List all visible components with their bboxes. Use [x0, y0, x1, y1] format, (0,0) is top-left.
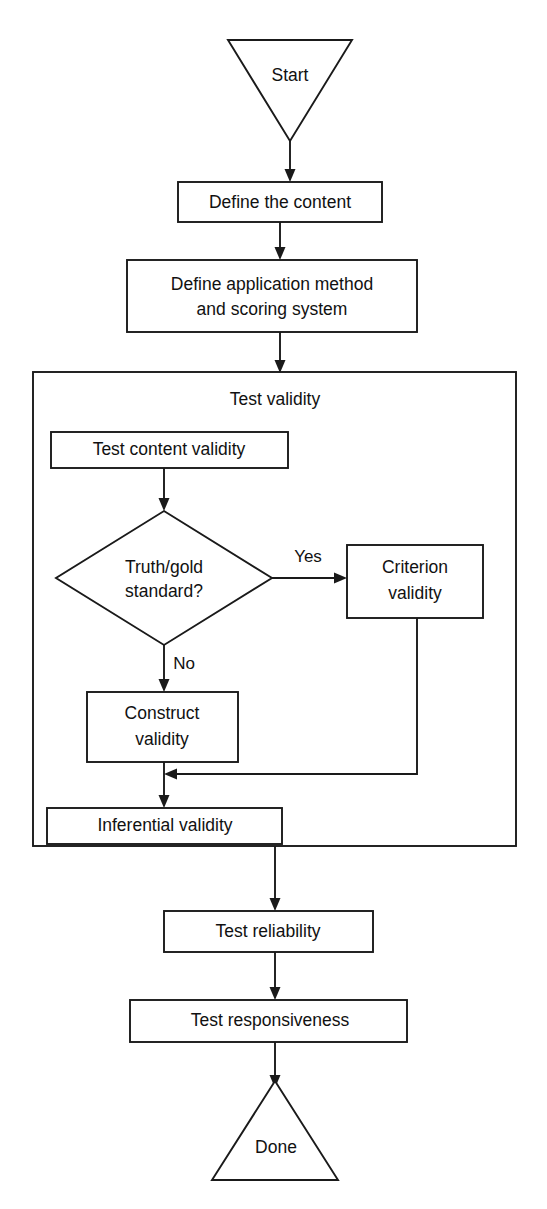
test-validity-label: Test validity — [230, 389, 321, 409]
edge-test-content-to-decision — [159, 468, 170, 511]
edge-label-yes: Yes — [294, 547, 322, 566]
define-method-label-line2: and scoring system — [197, 299, 348, 319]
start-label: Start — [272, 65, 309, 85]
define-method-label-line1: Define application method — [171, 274, 373, 294]
construct-validity-label-line1: Construct — [125, 703, 200, 723]
test-content-validity-label: Test content validity — [93, 439, 246, 459]
criterion-validity-label-line1: Criterion — [382, 557, 448, 577]
flowchart-page: Start Define the content Define applicat… — [0, 0, 547, 1209]
decision-label-line1: Truth/gold — [125, 557, 203, 577]
node-define-method: Define application method and scoring sy… — [127, 260, 417, 332]
arrowhead-down-icon — [159, 795, 170, 808]
edge-test-validity-to-test-reliability — [270, 846, 281, 911]
decision-diamond-shape — [56, 511, 272, 645]
done-label: Done — [255, 1137, 297, 1157]
arrowhead-right-icon — [334, 573, 347, 584]
edge-decision-no-to-construct: No — [159, 645, 195, 692]
edge-start-to-define-content — [285, 141, 296, 182]
done-triangle-shape — [212, 1081, 338, 1180]
flowchart-canvas: Start Define the content Define applicat… — [0, 0, 547, 1209]
edge-test-reliability-to-test-responsiveness — [270, 952, 281, 1000]
arrowhead-down-icon — [275, 247, 286, 260]
node-criterion-validity: Criterion validity — [347, 545, 483, 618]
arrowhead-down-icon — [270, 987, 281, 1000]
edge-define-method-to-test-validity — [275, 332, 286, 373]
define-method-box-shape — [127, 260, 417, 332]
arrowhead-down-icon — [270, 898, 281, 911]
node-inferential-validity: Inferential validity — [47, 808, 282, 844]
edge-decision-yes-to-criterion: Yes — [272, 547, 347, 583]
inferential-validity-label: Inferential validity — [97, 815, 232, 835]
node-test-content-validity: Test content validity — [51, 432, 288, 468]
construct-validity-label-line2: validity — [135, 729, 189, 749]
node-decision-truth-gold-standard: Truth/gold standard? — [56, 511, 272, 645]
decision-label-line2: standard? — [125, 581, 203, 601]
criterion-validity-label-line2: validity — [388, 583, 442, 603]
start-triangle-shape — [228, 40, 352, 141]
arrowhead-down-icon — [159, 679, 170, 692]
node-test-reliability: Test reliability — [164, 911, 373, 952]
node-start: Start — [228, 40, 352, 141]
node-construct-validity: Construct validity — [87, 692, 238, 762]
edge-construct-to-inferential — [159, 762, 170, 808]
arrowhead-left-icon — [164, 769, 177, 780]
test-reliability-label: Test reliability — [215, 921, 320, 941]
node-done: Done — [212, 1081, 338, 1180]
edge-label-no: No — [173, 654, 195, 673]
arrowhead-down-icon — [275, 360, 286, 373]
node-test-responsiveness: Test responsiveness — [130, 1000, 407, 1042]
define-content-label: Define the content — [209, 192, 351, 212]
arrowhead-down-icon — [285, 169, 296, 182]
arrowhead-down-icon — [159, 498, 170, 511]
edge-define-content-to-define-method — [275, 222, 286, 260]
node-define-content: Define the content — [178, 182, 382, 222]
test-responsiveness-label: Test responsiveness — [191, 1010, 350, 1030]
